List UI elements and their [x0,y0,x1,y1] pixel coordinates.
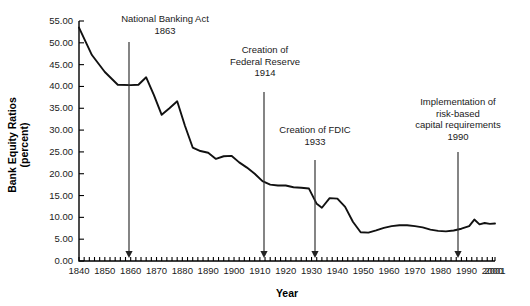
y-tick-label: 35.00 [49,102,73,113]
x-tick-label: 1840 [68,265,89,276]
y-tick-label: 10.00 [49,211,73,222]
annotation-arrow-head [125,251,132,258]
x-tick-label: 1920 [275,265,296,276]
annotation-text: 1990 [447,131,468,142]
x-tick-label: 1980 [430,265,451,276]
y-tick-label: 15.00 [49,190,73,201]
x-tick-label: 1860 [120,265,141,276]
x-tick-label: 1990 [456,265,477,276]
annotation-text: risk-based [436,108,480,119]
x-axis-title: Year [276,287,298,299]
y-tick-label: 50.00 [49,37,73,48]
annotation-fdic: Creation of FDIC1933 [279,124,350,258]
x-tick-label: 1910 [249,265,270,276]
annotation-text: capital requirements [415,119,501,130]
annotation-text: 1914 [254,67,275,78]
y-axis-tick-labels: 0.005.0010.0015.0020.0025.0030.0035.0040… [49,15,73,266]
bank-equity-ratio-chart: 0.005.0010.0015.0020.0025.0030.0035.0040… [0,0,530,306]
x-tick-label: 1880 [172,265,193,276]
x-tick-label: 1940 [327,265,348,276]
annotation-text: Creation of [242,44,289,55]
x-tick-label: 1970 [404,265,425,276]
annotation-text: Creation of FDIC [279,124,350,135]
x-tick-label: 1870 [146,265,167,276]
annotation-risk-based-capital: Implementation ofrisk-basedcapital requi… [415,96,501,258]
annotation-text: 1863 [154,25,175,36]
y-tick-label: 40.00 [49,80,73,91]
y-tick-label: 20.00 [49,168,73,179]
y-tick-label: 45.00 [49,59,73,70]
y-tick-label: 55.00 [49,15,73,26]
annotation-text: Implementation of [420,96,496,107]
annotation-text: 1933 [304,136,325,147]
annotation-arrow-head [260,251,267,258]
chart-canvas: 0.005.0010.0015.0020.0025.0030.0035.0040… [0,0,530,306]
x-tick-label: 1900 [223,265,244,276]
x-tick-label: 1890 [198,265,219,276]
annotation-arrow-head [454,251,461,258]
y-axis-title-line1: Bank Equity Ratios [6,97,18,193]
x-tick-label: 1930 [301,265,322,276]
x-tick-label: 1960 [378,265,399,276]
y-tick-label: 30.00 [49,124,73,135]
y-tick-label: 25.00 [49,146,73,157]
y-axis-title: Bank Equity Ratios(percent) [6,97,30,193]
x-tick-label: 1850 [94,265,115,276]
annotation-federal-reserve: Creation ofFederal Reserve1914 [230,44,300,258]
y-tick-label: 5.00 [55,233,74,244]
annotation-national-banking-act: National Banking Act1863 [121,13,209,258]
chart-annotations-group: National Banking Act1863Creation ofFeder… [121,13,501,258]
annotation-text: National Banking Act [121,13,209,24]
y-axis-title-line2: (percent) [18,123,30,168]
x-tick-label: 2001 [484,265,505,276]
annotation-arrow-head [311,251,318,258]
x-axis-tick-labels: 1840185018601870188018901900191019201930… [68,265,505,276]
annotation-text: Federal Reserve [230,56,300,67]
x-tick-label: 1950 [353,265,374,276]
